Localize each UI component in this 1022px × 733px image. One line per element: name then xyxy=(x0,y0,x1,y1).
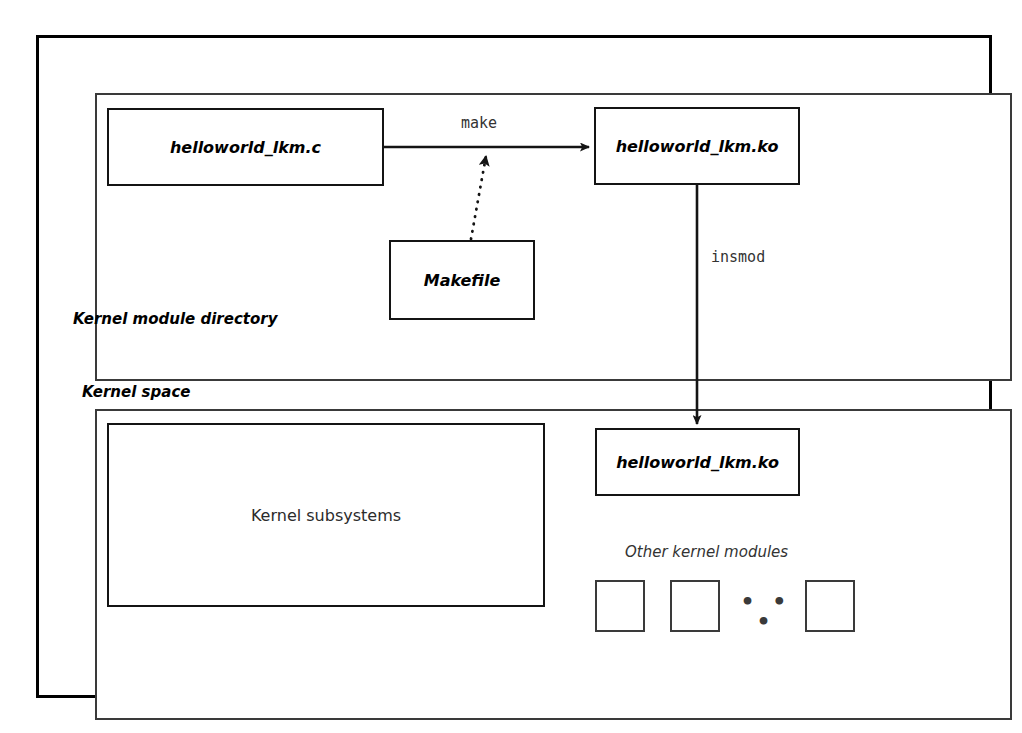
node-label-ko-built: helloworld_lkm.ko xyxy=(616,137,779,156)
node-box-ko-built[interactable]: helloworld_lkm.ko xyxy=(594,107,800,185)
edge-label-insmod: insmod xyxy=(711,248,765,266)
label-other-kernel-modules: Other kernel modules xyxy=(625,543,788,561)
module-square-2[interactable] xyxy=(670,580,720,632)
node-box-kernel-subsystems[interactable]: Kernel subsystems xyxy=(107,423,545,607)
module-square-1[interactable] xyxy=(595,580,645,632)
node-label-ko-loaded: helloworld_lkm.ko xyxy=(616,453,779,472)
section-label-kernel-module-directory: Kernel module directory xyxy=(73,310,277,328)
module-square-3[interactable] xyxy=(805,580,855,632)
node-label-source-c: helloworld_lkm.c xyxy=(170,138,321,157)
diagram-canvas: Kernel module directory Kernel space hel… xyxy=(0,0,1022,733)
node-box-source-c[interactable]: helloworld_lkm.c xyxy=(107,108,384,186)
node-box-ko-loaded[interactable]: helloworld_lkm.ko xyxy=(595,428,800,496)
section-label-kernel-space: Kernel space xyxy=(82,383,190,401)
node-label-kernel-subsystems: Kernel subsystems xyxy=(251,506,401,525)
node-box-makefile[interactable]: Makefile xyxy=(389,240,535,320)
edge-label-make: make xyxy=(461,114,497,132)
modules-ellipsis-icon: • • • xyxy=(738,592,794,632)
node-label-makefile: Makefile xyxy=(424,271,501,290)
